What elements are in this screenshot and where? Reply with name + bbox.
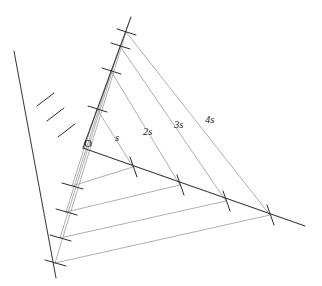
tick-mark <box>58 124 75 137</box>
tick-mark <box>47 108 64 121</box>
connector-segment <box>126 32 270 215</box>
tick-mark <box>88 106 107 112</box>
tick-mark <box>223 191 230 211</box>
axis-lines-group <box>14 17 305 278</box>
axis-line-diagonal-main <box>14 51 56 278</box>
geometry-figure: O s 2s 3s 4s <box>0 0 322 286</box>
tick-marks-group <box>37 29 274 266</box>
tick-mark <box>177 175 184 195</box>
scale-label-2s: 2s <box>143 127 152 138</box>
figure-canvas <box>0 0 322 286</box>
tick-group-lower-right <box>130 157 274 225</box>
vertex-label-o: O <box>84 138 92 149</box>
axis-line-lower-right <box>83 148 305 226</box>
connector-triangle-1 <box>72 109 133 186</box>
axis-line-upper-right <box>83 17 131 148</box>
scale-label-3s: 3s <box>174 120 183 131</box>
connector-segment <box>55 215 270 263</box>
tick-group-upper-left <box>37 93 75 137</box>
scale-label-4s: 4s <box>205 115 214 126</box>
scale-label-s: s <box>115 133 119 144</box>
tick-mark <box>37 93 54 106</box>
connector-segment <box>60 201 226 238</box>
tick-mark <box>111 43 130 49</box>
